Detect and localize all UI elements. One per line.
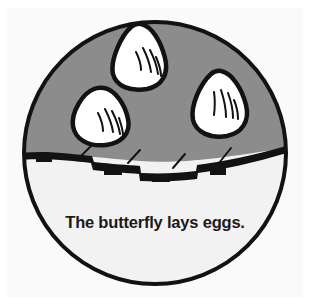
leaf-notch: [104, 167, 122, 175]
illustration-frame: Butterfly life cycle stage illustration: [0, 0, 310, 304]
caption-label: The butterfly lays eggs.: [65, 213, 245, 231]
leaf-notch: [152, 174, 170, 182]
leaf-notch: [210, 168, 226, 175]
leaf-notch: [36, 156, 52, 162]
butterfly-eggs-illustration: Butterfly life cycle stage illustration: [0, 0, 310, 304]
